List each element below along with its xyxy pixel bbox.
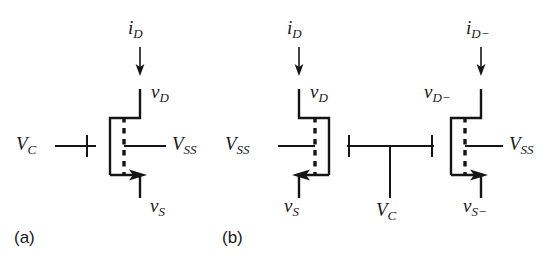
panel-a-source-voltage-label: vS [150, 196, 165, 215]
panel-b-center-element [347, 135, 434, 198]
panel-a-gate-lead [55, 135, 96, 157]
panel-b-right-source-lead [451, 170, 488, 199]
panel-b-control-voltage-label: VC [376, 200, 396, 219]
panel-b-right-drain-voltage-label: vD− [424, 82, 451, 101]
panel-b-left-drain-voltage-label: vD [310, 82, 328, 101]
panel-b-left-source-lead [292, 170, 329, 199]
panel-a-gate-voltage-label: VC [16, 134, 36, 153]
panel-b-left-device [278, 47, 329, 198]
panel-b-left-drain-current-label: iD [287, 18, 302, 37]
panel-a-source-lead [110, 170, 147, 199]
schematic-canvas [0, 0, 547, 272]
panel-b-right-drain-current-arrow [477, 47, 486, 76]
panel-b-left-drain-current-arrow [295, 47, 304, 76]
panel-a-drain-voltage-label: vD [151, 82, 169, 101]
circuit-figure: iD vD VC VSS vS (a) iD vD VSS vS VC iD− … [0, 0, 547, 272]
panel-a-drain-current-arrow [136, 47, 145, 76]
panel-a-drain-current-label: iD [128, 18, 143, 37]
panel-b-right-bulk-voltage-label: VSS [509, 134, 534, 153]
panel-a-device [55, 47, 166, 198]
panel-b-caption: (b) [222, 228, 243, 248]
panel-b-left-source-voltage-label: vS [284, 196, 299, 215]
panel-b-right-device [451, 47, 503, 198]
panel-b-right-source-voltage-label: vS− [463, 196, 487, 215]
panel-a-bulk-voltage-label: VSS [172, 134, 197, 153]
panel-a-caption: (a) [14, 228, 35, 248]
panel-b-left-bulk-voltage-label: VSS [225, 134, 250, 153]
panel-b-right-drain-current-label: iD− [466, 18, 489, 37]
